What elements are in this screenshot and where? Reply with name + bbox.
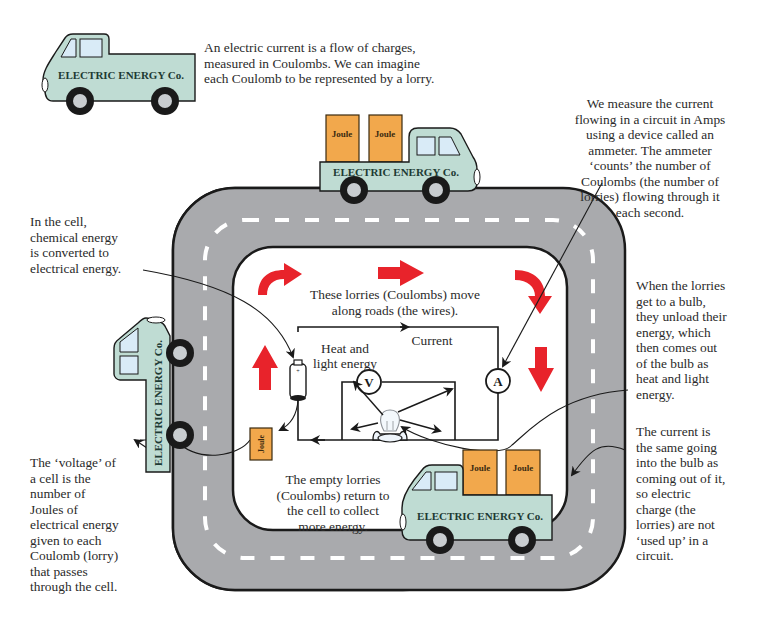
- text-line: ‘counts’ the number of: [555, 158, 745, 174]
- text-line: The current is: [636, 424, 725, 440]
- text-line: into the bulb as: [636, 455, 725, 471]
- joule-label: Joule: [375, 129, 396, 139]
- diagram-canvas: + V A: [0, 0, 768, 641]
- text-line: energy.: [636, 387, 727, 403]
- company-label: ELECTRIC ENERGY Co.: [58, 69, 184, 81]
- text-line: chemical energy: [30, 230, 121, 246]
- text-line: The ‘voltage’ of: [30, 455, 119, 471]
- text-line: ‘used up’ in a: [636, 533, 725, 549]
- text-line: they unload their: [636, 309, 727, 325]
- roads-annotation: These lorries (Coulombs) move along road…: [290, 287, 500, 318]
- text-line: so electric: [636, 486, 725, 502]
- truck-loaded-top: Joule Joule ELECTRIC ENERGY Co.: [320, 115, 480, 204]
- current-same-annotation: The current is the same going into the b…: [636, 424, 725, 564]
- text-line: more energy.: [268, 519, 398, 535]
- company-label: ELECTRIC ENERGY Co.: [152, 340, 164, 466]
- intro-annotation: An electric current is a flow of charges…: [204, 40, 434, 87]
- heat-light-label-line2: light energy: [313, 356, 377, 371]
- cell-battery-icon: +: [290, 360, 306, 401]
- voltmeter-symbol: V: [364, 375, 374, 390]
- text-line: through the cell.: [30, 579, 119, 595]
- text-line: using a device called an: [555, 127, 745, 143]
- text-line: An electric current is a flow of charges…: [204, 40, 434, 56]
- joule-label: Joule: [513, 463, 534, 473]
- text-line: of the bulb as: [636, 356, 727, 372]
- heat-light-label-line1: Heat and: [321, 341, 369, 356]
- text-line: Joules of: [30, 502, 119, 518]
- text-line: heat and light: [636, 371, 727, 387]
- text-line: ammeter. The ammeter: [555, 143, 745, 159]
- text-line: each second.: [555, 205, 745, 221]
- text-line: number of: [30, 486, 119, 502]
- joule-label: Joule: [332, 129, 353, 139]
- ammeter-icon: A: [486, 369, 510, 393]
- text-line: lorries) are not: [636, 517, 725, 533]
- text-line: When the lorries: [636, 278, 727, 294]
- truck-empty-intro: ELECTRIC ENERGY Co.: [42, 34, 195, 115]
- joule-box-loose: Joule: [250, 428, 272, 460]
- text-line: circuit.: [636, 548, 725, 564]
- text-line: that passes: [30, 564, 119, 580]
- text-line: coming out of it,: [636, 471, 725, 487]
- text-line: lorries) flowing through it: [555, 189, 745, 205]
- text-line: These lorries (Coulombs) move: [290, 287, 500, 303]
- joule-label: Joule: [257, 434, 266, 453]
- cell-annotation: In the cell, chemical energy is converte…: [30, 214, 121, 276]
- text-line: is converted to: [30, 245, 121, 261]
- text-line: The empty lorries: [268, 472, 398, 488]
- text-line: (Coulombs) return to: [268, 488, 398, 504]
- bulb-annotation: When the lorries get to a bulb, they unl…: [636, 278, 727, 402]
- text-line: Coulombs (the number of: [555, 174, 745, 190]
- text-line: along roads (the wires).: [290, 303, 500, 319]
- text-line: flowing in a circuit in Amps: [555, 112, 745, 128]
- text-line: Coulomb (lorry): [30, 548, 119, 564]
- text-line: electrical energy.: [30, 261, 121, 277]
- text-line: In the cell,: [30, 214, 121, 230]
- current-label: Current: [412, 333, 453, 348]
- text-line: charge (the: [636, 502, 725, 518]
- text-line: energy, which: [636, 325, 727, 341]
- text-line: We measure the current: [555, 96, 745, 112]
- text-line: then comes out: [636, 340, 727, 356]
- text-line: the same going: [636, 440, 725, 456]
- text-line: measured in Coulombs. We can imagine: [204, 56, 434, 72]
- text-line: given to each: [30, 533, 119, 549]
- text-line: each Coulomb to be represented by a lorr…: [204, 71, 434, 87]
- ammeter-symbol: A: [493, 374, 503, 389]
- text-line: electrical energy: [30, 517, 119, 533]
- ammeter-annotation: We measure the current flowing in a circ…: [555, 96, 745, 220]
- voltage-annotation: The ‘voltage’ of a cell is the number of…: [30, 455, 119, 595]
- text-line: a cell is the: [30, 471, 119, 487]
- joule-label: Joule: [470, 463, 491, 473]
- company-label: ELECTRIC ENERGY Co.: [417, 510, 543, 522]
- text-line: the cell to collect: [268, 503, 398, 519]
- empty-lorries-annotation: The empty lorries (Coulombs) return to t…: [268, 472, 398, 534]
- text-line: get to a bulb,: [636, 294, 727, 310]
